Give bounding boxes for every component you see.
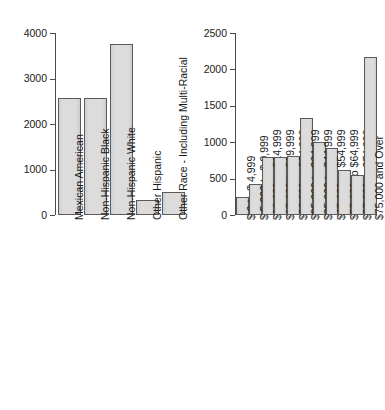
y-axis-tick-label: 3000 (24, 73, 47, 84)
x-axis-category-label: Other Hispanic (152, 151, 163, 220)
y-axis-tick-label: 2500 (204, 28, 227, 39)
x-axis-category-label: Other Race - Including Multi-Racial (178, 57, 189, 220)
chart-panel-income: 05001000150020002500$ 0 to $ 4,999$ 5,00… (190, 0, 379, 410)
y-axis-tick-label: 0 (221, 210, 227, 221)
y-axis-tick-label: 2000 (204, 64, 227, 75)
y-axis-tick (230, 142, 235, 143)
y-axis-tick (230, 33, 235, 34)
y-axis-tick (50, 33, 55, 34)
y-axis-line-0 (55, 33, 56, 215)
x-axis-category-label: Non-Hispanic White (126, 127, 137, 220)
x-axis-category-label: $75,000 and Over (374, 136, 385, 220)
x-axis-category-label: Mexican American (74, 134, 85, 220)
y-axis-tick (230, 215, 235, 216)
y-axis-tick-label: 1000 (204, 137, 227, 148)
y-axis-line-1 (235, 33, 236, 215)
y-axis-tick-label: 1000 (24, 164, 47, 175)
y-axis-tick (50, 215, 55, 216)
y-axis-tick-label: 1500 (204, 100, 227, 111)
y-axis-tick (50, 124, 55, 125)
y-axis-tick (50, 170, 55, 171)
chart-panel-race: 01000200030004000Mexican AmericanNon-His… (0, 0, 190, 410)
y-axis-tick (230, 69, 235, 70)
y-axis-tick (230, 106, 235, 107)
y-axis-tick-label: 500 (209, 173, 227, 184)
y-axis-tick-label: 0 (41, 210, 47, 221)
y-axis-tick (230, 179, 235, 180)
y-axis-tick-label: 2000 (24, 119, 47, 130)
y-axis-tick-label: 4000 (24, 28, 47, 39)
x-axis-category-label: Non-Hispanic Black (100, 128, 111, 220)
y-axis-tick (50, 79, 55, 80)
